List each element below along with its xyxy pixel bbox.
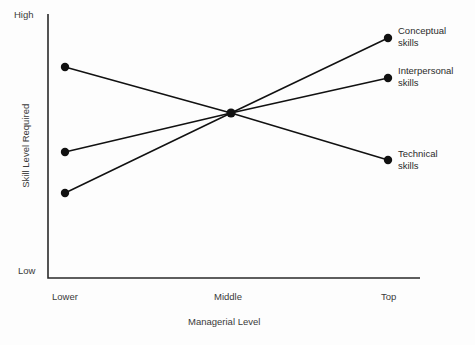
y-axis-title: Skill Level Required (20, 86, 32, 206)
data-point-conceptual-lower (61, 189, 69, 197)
series-label-technical-line2: skills (398, 160, 419, 171)
series-label-interpersonal-line1: Interpersonal (398, 65, 453, 76)
series-label-technical-skills: Technical skills (398, 148, 475, 171)
series-label-conceptual-skills: Conceptual skills (398, 25, 475, 48)
data-point-technical-top (384, 156, 392, 164)
series-label-interpersonal-skills: Interpersonal skills (398, 65, 475, 88)
y-axis-tick-low: Low (18, 265, 35, 277)
series-label-technical-line1: Technical (398, 148, 438, 159)
series-line-conceptual-skills (65, 38, 388, 193)
data-point-interpersonal-lower (61, 148, 69, 156)
series-label-conceptual-line1: Conceptual (398, 25, 446, 36)
x-axis-tick-lower: Lower (52, 291, 78, 303)
x-axis-tick-middle: Middle (214, 291, 242, 303)
data-point-conceptual-top (384, 34, 392, 42)
chart-container: High Low Skill Level Required Lower Midd… (0, 0, 475, 345)
y-axis-tick-high: High (14, 9, 34, 21)
chart-axes (48, 14, 420, 278)
data-point-technical-lower (61, 63, 69, 71)
data-point-middle-crossing (226, 108, 235, 117)
data-point-interpersonal-top (384, 74, 392, 82)
x-axis-tick-top: Top (381, 291, 396, 303)
series-label-conceptual-line2: skills (398, 37, 419, 48)
series-label-interpersonal-line2: skills (398, 77, 419, 88)
x-axis-title: Managerial Level (188, 316, 260, 328)
